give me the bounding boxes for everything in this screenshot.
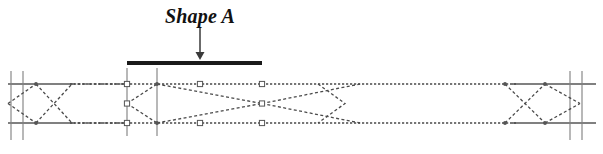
node-dot: [155, 82, 159, 86]
node-dot: [543, 121, 547, 125]
brace-mid-5[interactable]: [262, 84, 360, 104]
grip-handle[interactable]: [259, 81, 264, 86]
solid-rail-group: [8, 84, 596, 123]
bracing-group[interactable]: [8, 84, 580, 123]
grid-line-group: [11, 68, 582, 140]
brace-mid-4[interactable]: [157, 104, 262, 124]
grip-handle[interactable]: [124, 101, 129, 106]
grip-handle[interactable]: [259, 120, 264, 125]
brace-mid-3[interactable]: [157, 84, 262, 104]
node-dot-group: [34, 82, 547, 125]
dashed-rail-group: [70, 84, 516, 123]
brace-right-3[interactable]: [545, 84, 580, 104]
node-dot: [155, 121, 159, 125]
node-dot: [34, 121, 38, 125]
grip-handle[interactable]: [259, 101, 264, 106]
grip-handle[interactable]: [197, 120, 202, 125]
arrow-head: [196, 52, 205, 60]
grip-handle[interactable]: [124, 120, 129, 125]
node-dot: [34, 82, 38, 86]
diagram-canvas: Shape A: [0, 0, 603, 154]
brace-right-4[interactable]: [545, 104, 580, 124]
grip-handle[interactable]: [197, 81, 202, 86]
node-dot: [503, 121, 507, 125]
node-dot: [543, 82, 547, 86]
shape-a-label: Shape A: [0, 4, 400, 28]
brace-mid-1[interactable]: [127, 84, 157, 104]
brace-mid-2[interactable]: [127, 104, 157, 124]
grip-handle-group[interactable]: [124, 81, 264, 125]
brace-mid-6[interactable]: [262, 104, 360, 124]
brace-left-2[interactable]: [8, 104, 36, 124]
brace-left-1[interactable]: [8, 84, 36, 104]
down-arrow-icon: [196, 27, 205, 60]
grip-handle[interactable]: [124, 81, 129, 86]
node-dot: [503, 82, 507, 86]
